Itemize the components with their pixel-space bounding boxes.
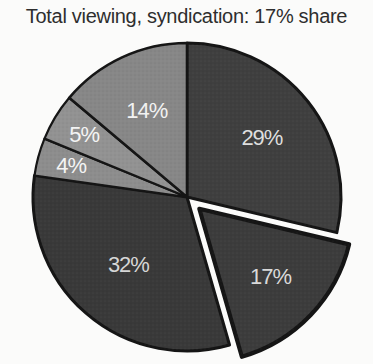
pie-chart-canvas: 29%17%32%4%5%14% bbox=[0, 0, 373, 364]
page: { "page": { "background": "#fbfbfa" }, "… bbox=[0, 0, 373, 364]
pie-chart-figure: Total viewing, syndication: 17% share 29… bbox=[0, 0, 373, 364]
slice-texture bbox=[33, 176, 230, 351]
slice-texture bbox=[187, 43, 341, 233]
